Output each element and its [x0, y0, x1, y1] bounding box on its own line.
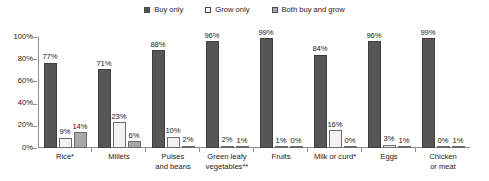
- bar-value-label: 6%: [129, 132, 140, 140]
- bar[interactable]: [98, 69, 111, 148]
- y-axis-tick-mark: [33, 37, 37, 38]
- legend-item-grow-only: Grow only: [205, 6, 249, 14]
- bar-column: 6%: [128, 37, 141, 148]
- bar-column: 0%: [344, 37, 357, 148]
- y-axis-tick-mark: [33, 59, 37, 60]
- bar-group: 96%2%1%: [200, 37, 254, 148]
- bar-value-label: 0%: [291, 137, 302, 145]
- bar-value-label: 23%: [111, 113, 126, 121]
- bar-group-bars: 96%2%1%: [200, 37, 254, 148]
- bar[interactable]: [167, 137, 180, 148]
- y-axis-tick-label: 20%: [18, 121, 33, 129]
- bar-value-label: 3%: [384, 135, 395, 143]
- bar[interactable]: [128, 141, 141, 148]
- bar[interactable]: [206, 41, 219, 148]
- bar-value-label: 96%: [366, 32, 381, 40]
- bar[interactable]: [113, 122, 126, 148]
- bar-group: 71%23%6%: [92, 37, 146, 148]
- y-axis-tick-mark: [33, 126, 37, 127]
- bar-group-bars: 99%1%0%: [254, 37, 308, 148]
- bar[interactable]: [344, 146, 357, 148]
- x-axis-category-label: Pulses and beans: [146, 152, 200, 171]
- bar-value-label: 84%: [312, 45, 327, 53]
- bar-value-label: 0%: [345, 137, 356, 145]
- bar[interactable]: [290, 146, 303, 148]
- bar[interactable]: [437, 146, 450, 148]
- x-axis-category-label: Millets: [92, 152, 146, 171]
- bar-column: 1%: [236, 37, 249, 148]
- bar-groups: 77%9%14%71%23%6%88%10%2%96%2%1%99%1%0%84…: [38, 37, 470, 148]
- y-axis-tick-mark: [33, 81, 37, 82]
- bar[interactable]: [59, 138, 72, 148]
- bar[interactable]: [44, 63, 57, 148]
- bar[interactable]: [221, 146, 234, 148]
- bar[interactable]: [275, 146, 288, 148]
- y-axis-tick-label: 40%: [18, 99, 33, 107]
- bar[interactable]: [236, 146, 249, 148]
- bar[interactable]: [452, 146, 465, 148]
- bar-value-label: 1%: [453, 137, 464, 145]
- bar-value-label: 9%: [60, 128, 71, 136]
- bar-value-label: 1%: [399, 137, 410, 145]
- bar-column: 16%: [329, 37, 342, 148]
- bar-column: 1%: [398, 37, 411, 148]
- bar-column: 1%: [275, 37, 288, 148]
- bar-column: 0%: [437, 37, 450, 148]
- bar-group: 88%10%2%: [146, 37, 200, 148]
- bar-column: 2%: [221, 37, 234, 148]
- bar-value-label: 99%: [420, 29, 435, 37]
- bar[interactable]: [182, 146, 195, 148]
- legend-label-both-buy-and-grow: Both buy and grow: [282, 6, 345, 14]
- bar-value-label: 2%: [183, 136, 194, 144]
- bar[interactable]: [152, 50, 165, 148]
- bar-group: 84%16%0%: [308, 37, 362, 148]
- bar[interactable]: [398, 146, 411, 148]
- bar-value-label: 71%: [96, 60, 111, 68]
- bar-chart: Buy only Grow only Both buy and grow 100…: [0, 0, 489, 181]
- bar-column: 99%: [260, 37, 273, 148]
- x-axis-category-label: Chicken or meat: [416, 152, 470, 171]
- chart-legend: Buy only Grow only Both buy and grow: [0, 6, 489, 14]
- legend-label-buy-only: Buy only: [154, 6, 183, 14]
- bar-column: 84%: [314, 37, 327, 148]
- bar-value-label: 0%: [438, 137, 449, 145]
- bar-group: 99%1%0%: [254, 37, 308, 148]
- y-axis-tick-label: 0%: [22, 144, 33, 152]
- bar-value-label: 1%: [276, 137, 287, 145]
- y-axis-tick-label: 80%: [18, 55, 33, 63]
- y-axis-tick-mark: [33, 104, 37, 105]
- bar-value-label: 88%: [150, 41, 165, 49]
- legend-label-grow-only: Grow only: [215, 6, 249, 14]
- bar[interactable]: [329, 130, 342, 148]
- x-axis-labels: Rice*MilletsPulses and beansGreen leafy …: [38, 152, 470, 171]
- bar-column: 96%: [368, 37, 381, 148]
- bar-column: 14%: [74, 37, 87, 148]
- bar-column: 71%: [98, 37, 111, 148]
- bar[interactable]: [74, 132, 87, 148]
- bar-value-label: 16%: [327, 121, 342, 129]
- bar-group: 96%3%1%: [362, 37, 416, 148]
- bar-column: 1%: [452, 37, 465, 148]
- bar-group: 99%0%1%: [416, 37, 470, 148]
- bar-group-bars: 77%9%14%: [38, 37, 92, 148]
- bar-column: 88%: [152, 37, 165, 148]
- bar[interactable]: [314, 55, 327, 148]
- bar[interactable]: [260, 38, 273, 148]
- legend-item-both-buy-and-grow: Both buy and grow: [272, 6, 345, 14]
- x-axis-category-label: Green leafy vegetables**: [200, 152, 254, 171]
- x-axis-category-label: Eggs: [362, 152, 416, 171]
- bar-column: 99%: [422, 37, 435, 148]
- bar[interactable]: [368, 41, 381, 148]
- legend-swatch-grow-only-icon: [205, 7, 211, 13]
- bar-column: 10%: [167, 37, 180, 148]
- bar-column: 23%: [113, 37, 126, 148]
- bar-column: 0%: [290, 37, 303, 148]
- bar-value-label: 10%: [165, 127, 180, 135]
- bar[interactable]: [383, 145, 396, 148]
- bar-value-label: 14%: [72, 123, 87, 131]
- y-axis-tick-mark: [33, 148, 37, 149]
- legend-swatch-buy-only-icon: [144, 7, 150, 13]
- bar-group-bars: 99%0%1%: [416, 37, 470, 148]
- bar[interactable]: [422, 38, 435, 148]
- bar-group-bars: 88%10%2%: [146, 37, 200, 148]
